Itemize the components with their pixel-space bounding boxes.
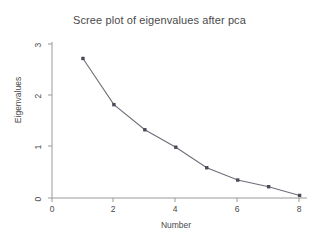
x-axis-label: Number: [52, 220, 300, 230]
scree-plot-figure: Scree plot of eigenvalues after pca Eige…: [0, 0, 319, 244]
y-tick-label-1: 1: [33, 137, 43, 157]
x-tick-label-6: 6: [227, 204, 247, 214]
y-axis-label: Eigenvalues: [13, 60, 23, 140]
data-point-2: [112, 103, 115, 106]
data-point-5: [205, 166, 208, 169]
y-tick-label-2: 2: [33, 86, 43, 106]
data-point-7: [267, 185, 270, 188]
x-axis-ticks: [52, 198, 299, 202]
x-tick-label-0: 0: [42, 204, 62, 214]
eigenvalue-markers: [81, 57, 301, 197]
data-point-6: [236, 178, 239, 181]
data-point-4: [174, 146, 177, 149]
data-point-8: [298, 194, 301, 197]
x-tick-label-4: 4: [165, 204, 185, 214]
eigenvalue-line: [83, 58, 300, 195]
y-tick-label-3: 3: [33, 35, 43, 55]
x-tick-label-8: 8: [289, 204, 309, 214]
y-axis-ticks: [48, 44, 52, 198]
data-point-3: [143, 128, 146, 131]
data-point-1: [81, 57, 84, 60]
x-tick-label-2: 2: [103, 204, 123, 214]
